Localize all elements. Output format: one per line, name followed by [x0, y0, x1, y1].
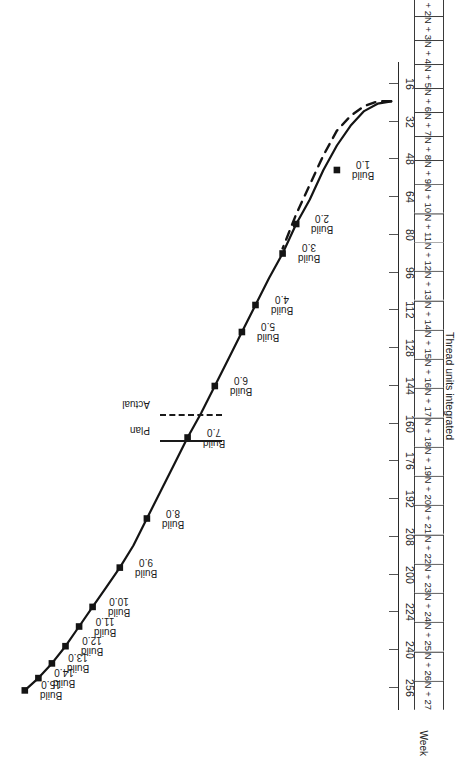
data-point-marker: [279, 250, 286, 257]
value-axis-tick: [389, 423, 398, 424]
data-point-marker: [62, 643, 69, 650]
week-axis-cell: N + 18: [414, 417, 444, 446]
data-point-marker: [252, 302, 259, 309]
thread-units-integrated-chart: 2562402242002081921761601441281129680644…: [0, 0, 472, 770]
build-label-line2: 13.0: [55, 652, 101, 663]
build-label: Build8.0: [150, 508, 196, 530]
week-axis-cell: N + 3: [414, 16, 444, 40]
build-label-line2: 15.0: [28, 679, 74, 690]
build-label: Build5.0: [245, 321, 291, 343]
week-axis-cell: N + 2: [414, 0, 444, 16]
week-axis-cell: N + 20: [414, 476, 444, 505]
week-axis-cell: N + 23: [414, 564, 444, 593]
build-label-line1: Build: [299, 224, 345, 235]
value-axis-tick: [389, 461, 398, 462]
value-axis-line: [398, 62, 399, 710]
build-label-line1: Build: [245, 332, 291, 343]
week-axis-cell: N + 27: [414, 681, 444, 710]
build-label-line2: 9.0: [123, 557, 169, 568]
build-label-line1: Build: [340, 170, 386, 181]
build-label-line2: 11.0: [82, 616, 128, 627]
value-axis-tick: [389, 574, 398, 575]
build-label: Build6.0: [218, 375, 264, 397]
value-axis-tick: [389, 385, 398, 386]
build-label: Build10.0: [96, 596, 142, 618]
week-axis-cell: N + 25: [414, 622, 444, 651]
week-axis-cell: N + 16: [414, 359, 444, 388]
value-axis-tick: [389, 272, 398, 273]
value-axis-tick: [389, 536, 398, 537]
week-axis-cell: N + 8: [414, 136, 444, 160]
value-axis-tick: [389, 612, 398, 613]
build-label-line2: 4.0: [259, 294, 305, 305]
build-label-line1: Build: [28, 690, 74, 701]
build-label-line1: Build: [123, 568, 169, 579]
build-label-line1: Build: [218, 386, 264, 397]
week-axis-cell: N + 5: [414, 64, 444, 88]
week-axis-cell: N + 11: [414, 213, 444, 242]
build-label: Build4.0: [259, 294, 305, 316]
build-label-line2: 14.0: [41, 667, 87, 678]
legend-swatch-solid: [160, 440, 222, 442]
week-axis-cell: N + 17: [414, 388, 444, 417]
week-axis-cell: N + 13: [414, 271, 444, 300]
build-label: Build7.0: [191, 427, 237, 449]
build-label-line2: 10.0: [96, 596, 142, 607]
value-axis-tick: [389, 83, 398, 84]
week-axis-cell: N + 10: [414, 184, 444, 213]
build-label-line2: 3.0: [286, 242, 332, 253]
series-line-plan: [25, 101, 391, 690]
week-axis-caption: Week: [418, 712, 429, 756]
week-axis-cell: N + 24: [414, 593, 444, 622]
build-label: Build1.0: [340, 159, 386, 181]
build-label: Build15.0: [28, 679, 74, 701]
week-axis-strip: N + 27N + 26N + 25N + 24N + 23N + 22N + …: [414, 62, 444, 710]
week-axis-cell: N + 15: [414, 330, 444, 359]
value-axis-title: Thread units integrated: [444, 62, 456, 710]
week-axis-cell: N + 9: [414, 160, 444, 184]
value-axis-tick: [389, 196, 398, 197]
week-axis-cell: N + 19: [414, 447, 444, 476]
legend-label: Actual: [122, 399, 150, 410]
value-axis-tick: [389, 498, 398, 499]
build-label-line1: Build: [259, 305, 305, 316]
week-axis-cell: N + 14: [414, 300, 444, 329]
value-axis-tick: [389, 159, 398, 160]
build-label: Build9.0: [123, 557, 169, 579]
week-axis-cell: N + 7: [414, 112, 444, 136]
week-axis-cell: N + 22: [414, 534, 444, 563]
build-label-line2: 5.0: [245, 321, 291, 332]
week-axis-cell: N + 26: [414, 651, 444, 680]
build-label-line1: Build: [150, 519, 196, 530]
value-axis-tick: [389, 310, 398, 311]
week-axis-cell: N + 4: [414, 40, 444, 64]
data-point-marker: [89, 604, 96, 611]
build-label-line2: 2.0: [299, 213, 345, 224]
legend-label: Plan: [130, 425, 150, 436]
value-axis-tick: [389, 347, 398, 348]
build-label-line2: 1.0: [340, 159, 386, 170]
value-axis-tick: [389, 649, 398, 650]
value-axis-tick: [389, 234, 398, 235]
build-label: Build3.0: [286, 242, 332, 264]
build-label-line2: 6.0: [218, 375, 264, 386]
build-label-line1: Build: [286, 253, 332, 264]
legend-swatch-dashed: [160, 414, 222, 416]
week-axis-cell: N + 21: [414, 505, 444, 534]
build-label-line2: 12.0: [69, 635, 115, 646]
value-axis-tick: [389, 121, 398, 122]
week-axis-cell: N + 12: [414, 242, 444, 271]
build-label: Build2.0: [299, 213, 345, 235]
chart-page: 2562402242002081921761601441281129680644…: [0, 0, 472, 770]
build-label-line2: 7.0: [191, 427, 237, 438]
value-axis-tick: [389, 687, 398, 688]
build-label-line2: 8.0: [150, 508, 196, 519]
week-axis-cell: N + 6: [414, 88, 444, 112]
